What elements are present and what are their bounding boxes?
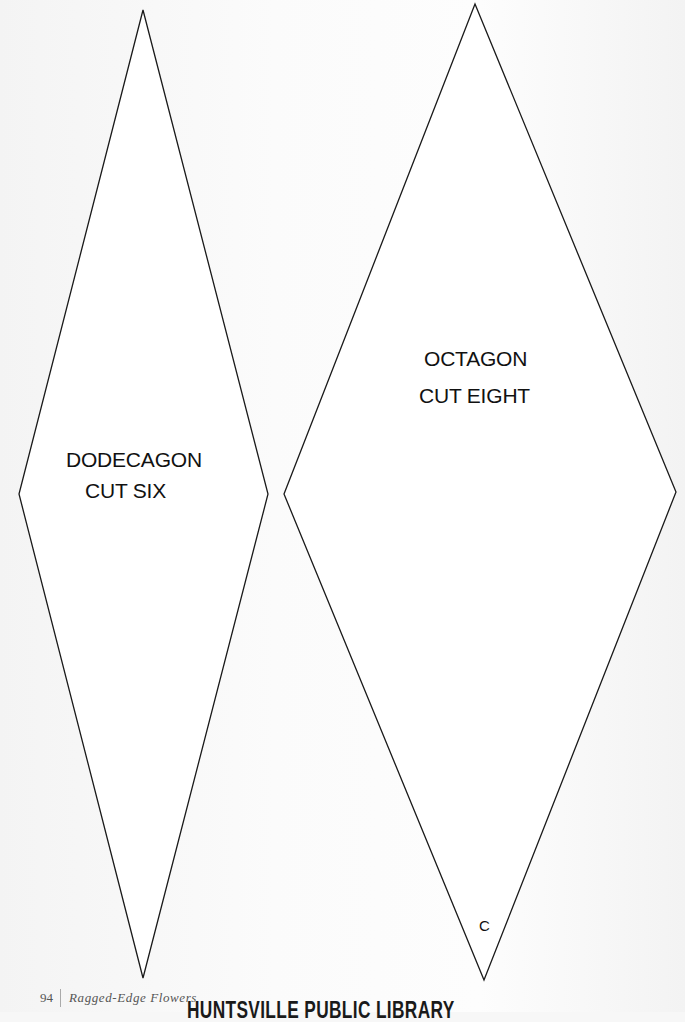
book-title: Ragged-Edge Flowers bbox=[69, 990, 197, 1006]
page-number: 94 bbox=[40, 990, 53, 1006]
dodecagon-label-line2: CUT SIX bbox=[85, 480, 166, 501]
page-footer: 94 Ragged-Edge Flowers bbox=[40, 988, 197, 1008]
octagon-label-line1: OCTAGON bbox=[424, 348, 527, 369]
octagon-diamond-template bbox=[284, 4, 676, 980]
library-stamp: HUNTSVILLE PUBLIC LIBRARY bbox=[187, 996, 455, 1022]
dodecagon-label-line1: DODECAGON bbox=[66, 449, 202, 470]
footer-divider bbox=[60, 989, 61, 1007]
octagon-label-line2: CUT EIGHT bbox=[419, 385, 530, 406]
corner-mark-c: C bbox=[479, 918, 490, 933]
